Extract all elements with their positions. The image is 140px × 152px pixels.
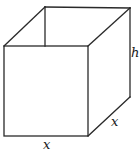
width-label: x: [43, 137, 51, 152]
depth-label: x: [111, 114, 119, 129]
height-label: h: [131, 45, 139, 60]
top-left-edge: [4, 7, 45, 46]
box-diagram: h x x: [0, 0, 140, 152]
top-back-edge: [45, 7, 130, 8]
bottom-right-edge: [88, 97, 130, 136]
top-right-edge: [88, 8, 130, 46]
front-face: [4, 46, 88, 136]
